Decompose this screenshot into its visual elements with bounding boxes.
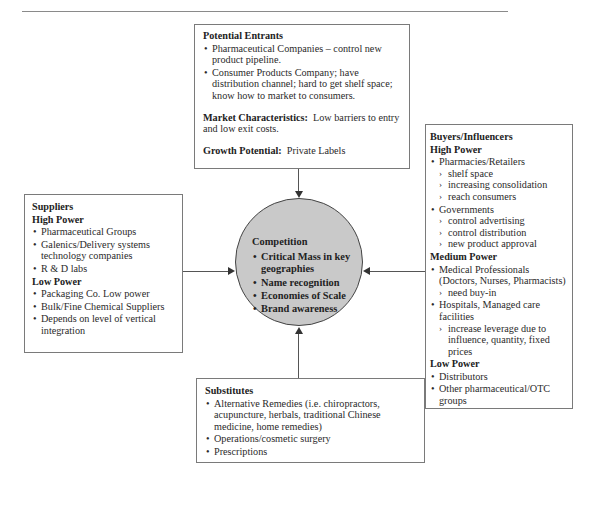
sub-list-item: need buy-in: [430, 287, 568, 299]
list-item: Prescriptions: [205, 446, 416, 458]
buyers-medium-power-label: Medium Power: [430, 251, 568, 263]
list-item: Other pharmaceutical/OTC groups: [430, 383, 568, 406]
growth-label: Growth Potential:: [203, 145, 282, 156]
sub-list-item: increasing consolidation: [430, 179, 568, 191]
arrow-up-icon: [295, 327, 303, 334]
list-item: Medical Professionals (Doctors, Nurses, …: [430, 264, 568, 287]
arrow-down-icon: [295, 191, 303, 198]
buyers-high-power-label: High Power: [430, 144, 568, 156]
list-item: Governments: [430, 204, 568, 216]
substitutes-title: Substitutes: [205, 385, 416, 397]
competition-content: Competition Critical Mass in key geograp…: [252, 236, 362, 315]
list-item: Alternative Remedies (i.e. chiropractors…: [205, 398, 416, 433]
top-rule: [22, 11, 508, 12]
list-item: Pharmacies/Retailers: [430, 156, 568, 168]
sub-list-item: control distribution: [430, 227, 568, 239]
list-item: Consumer Products Company; have distribu…: [203, 67, 401, 102]
list-item: Pharmaceutical Companies – control new p…: [203, 43, 401, 66]
arrow-right-icon: [228, 267, 235, 275]
list-item: Operations/cosmetic surgery: [205, 433, 416, 445]
list-item: Name recognition: [252, 277, 362, 289]
suppliers-title: Suppliers: [32, 201, 175, 213]
list-item: Distributors: [430, 371, 568, 383]
competition-title: Competition: [252, 236, 362, 248]
substitutes-box: Substitutes Alternative Remedies (i.e. c…: [196, 378, 425, 463]
buyers-low-power-label: Low Power: [430, 358, 568, 370]
list-item: Pharmaceutical Groups: [32, 226, 175, 238]
connector-top: [298, 169, 299, 192]
list-item: Hospitals, Managed care facilities: [430, 299, 568, 322]
arrow-left-icon: [363, 267, 370, 275]
list-item: Economies of Scale: [252, 290, 362, 302]
sub-list-item: reach consumers: [430, 191, 568, 203]
list-item: Critical Mass in key geographies: [252, 251, 362, 275]
connector-bottom: [298, 333, 299, 378]
potential-entrants-box: Potential Entrants Pharmaceutical Compan…: [194, 24, 410, 169]
suppliers-low-power-label: Low Power: [32, 276, 175, 288]
list-item: Brand awareness: [252, 303, 362, 315]
list-item: Depends on level of vertical integration: [32, 313, 175, 336]
sub-list-item: control advertising: [430, 215, 568, 227]
list-item: Galenics/Delivery systems technology com…: [32, 239, 175, 262]
growth-potential: Growth Potential: Private Labels: [203, 145, 401, 157]
list-item: Bulk/Fine Chemical Suppliers: [32, 301, 175, 313]
connector-right: [369, 271, 425, 272]
buyers-box: Buyers/Influencers High Power Pharmacies…: [425, 124, 573, 409]
market-label: Market Characteristics:: [203, 112, 308, 123]
buyers-title: Buyers/Influencers: [430, 131, 568, 143]
sub-list-item: shelf space: [430, 168, 568, 180]
suppliers-high-power-label: High Power: [32, 214, 175, 226]
connector-left: [183, 271, 229, 272]
growth-text: Private Labels: [287, 145, 346, 156]
sub-list-item: increase leverage due to influence, quan…: [430, 323, 568, 358]
sub-list-item: new product approval: [430, 238, 568, 250]
list-item: Packaging Co. Low power: [32, 288, 175, 300]
list-item: R & D labs: [32, 263, 175, 275]
market-characteristics: Market Characteristics: Low barriers to …: [203, 112, 401, 135]
suppliers-box: Suppliers High Power Pharmaceutical Grou…: [24, 194, 183, 353]
potential-entrants-title: Potential Entrants: [203, 30, 401, 42]
